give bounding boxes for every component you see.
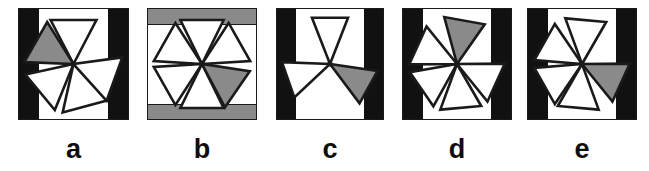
blade xyxy=(312,18,348,64)
panel-d: d xyxy=(402,8,512,120)
panel-e: e xyxy=(527,8,637,120)
blade-highlighted xyxy=(330,64,378,103)
panel-frame-c xyxy=(276,8,384,120)
panel-label-e: e xyxy=(527,134,637,165)
pinwheel-a xyxy=(19,9,128,119)
panel-frame-a xyxy=(18,8,129,120)
panel-frame-b xyxy=(147,8,257,120)
panel-label-d: d xyxy=(402,134,512,165)
blade xyxy=(282,62,330,97)
panel-label-a: a xyxy=(18,134,129,165)
pinwheel-b xyxy=(148,9,256,119)
panel-a: a xyxy=(18,8,129,120)
pinwheel-d xyxy=(403,9,511,119)
pinwheel-e xyxy=(528,9,636,119)
panel-b: b xyxy=(147,8,257,120)
pinwheel-c xyxy=(277,9,383,119)
panel-frame-d xyxy=(402,8,512,120)
panel-frame-e xyxy=(527,8,637,120)
pinwheel-figure: abcde xyxy=(0,0,649,171)
panel-label-b: b xyxy=(147,134,257,165)
panel-label-c: c xyxy=(276,134,384,165)
panel-c: c xyxy=(276,8,384,120)
